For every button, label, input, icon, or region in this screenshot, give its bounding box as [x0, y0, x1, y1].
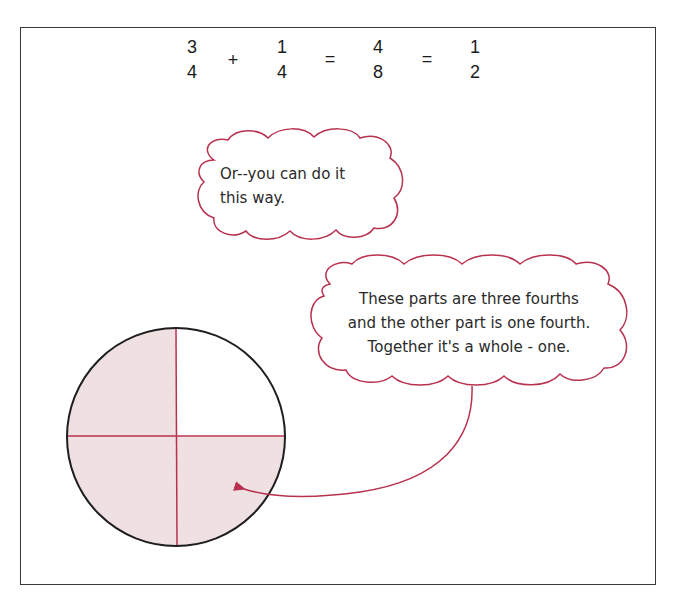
vertical-divider [176, 328, 177, 546]
bubble-2-line: and the other part is one fourth. [318, 311, 620, 335]
bubble-1-line: this way. [220, 186, 390, 210]
bubble-2-text: These parts are three fourths and the ot… [318, 287, 620, 359]
bubble-2-line: Together it's a whole - one. [318, 335, 620, 359]
fraction-circle [60, 320, 292, 557]
bubble-1-text: Or--you can do it this way. [220, 162, 390, 210]
bubble-1-line: Or--you can do it [220, 162, 390, 186]
quarter-top-left-shaded [60, 320, 176, 437]
bubble-2-line: These parts are three fourths [318, 287, 620, 311]
quarter-top-right-unshaded [176, 320, 292, 437]
quarter-bottom-right-shaded [176, 437, 292, 557]
quarter-bottom-left-shaded [60, 437, 176, 557]
